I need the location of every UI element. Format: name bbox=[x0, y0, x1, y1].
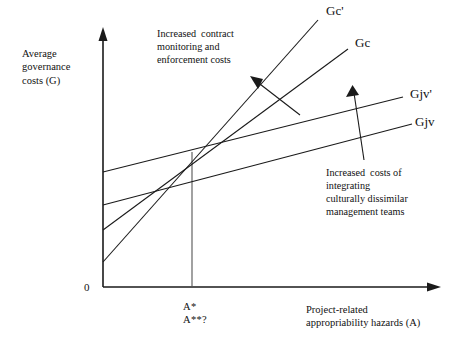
cost-curves-group bbox=[103, 20, 412, 262]
curve-gc bbox=[103, 49, 348, 230]
annotation-contract-costs: Increased contract monitoring and enforc… bbox=[157, 27, 234, 66]
x-axis-title: Project-related appropriability hazards … bbox=[306, 303, 420, 330]
x-tick-label-a-star: A* A**? bbox=[183, 300, 207, 327]
curve-label-gc: Gc bbox=[355, 35, 370, 52]
axes-group bbox=[99, 27, 442, 292]
curve-label-gjv-prime: Gjv' bbox=[410, 86, 432, 103]
y-axis-arrowhead bbox=[99, 27, 108, 41]
integration-shift-arrowhead bbox=[346, 85, 359, 97]
curve-label-gc-prime: Gc' bbox=[326, 3, 344, 20]
curve-label-gjv: Gjv bbox=[415, 114, 435, 131]
contract-shift-arrow-shaft bbox=[256, 81, 300, 115]
x-axis-arrowhead bbox=[427, 283, 441, 292]
y-axis-title: Average governance costs (G) bbox=[22, 47, 70, 87]
integration-shift-arrow-shaft bbox=[354, 93, 364, 160]
shift-arrows-group bbox=[250, 76, 364, 160]
contract-shift-arrowhead bbox=[250, 76, 263, 89]
annotation-integration-costs: Increased costs of integrating culturall… bbox=[326, 166, 408, 218]
origin-label: 0 bbox=[84, 280, 90, 294]
curve-gjv-prime bbox=[103, 97, 403, 172]
